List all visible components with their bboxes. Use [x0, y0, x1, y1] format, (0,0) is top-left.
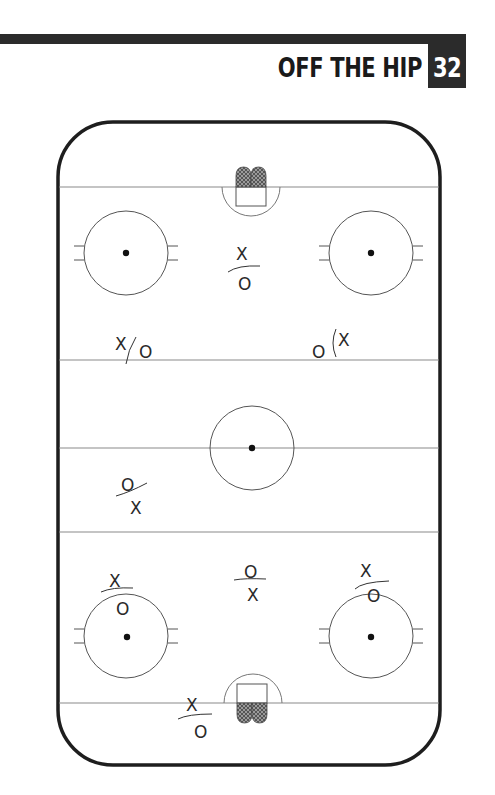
player-o: O: [238, 274, 251, 294]
faceoff-dot: [368, 250, 374, 256]
player-x: X: [247, 585, 259, 605]
faceoff-dot: [124, 634, 130, 640]
top-net-icon: [236, 167, 251, 187]
hockey-rink-diagram: X O X O O X O X X O O X X O X O: [0, 0, 495, 795]
player-x: X: [338, 330, 350, 350]
player-o: O: [116, 599, 129, 619]
player-x: X: [360, 561, 372, 581]
rink-boards: [58, 122, 440, 765]
faceoff-dot: [123, 250, 129, 256]
player-x: X: [109, 571, 121, 591]
bottom-net-icon: [237, 703, 252, 723]
player-x: X: [130, 498, 142, 518]
player-o: O: [367, 586, 380, 606]
player-x: X: [115, 334, 127, 354]
player-o: O: [312, 342, 325, 362]
faceoff-dot: [368, 634, 374, 640]
player-o: O: [244, 562, 257, 582]
player-o: O: [194, 722, 207, 742]
player-x: X: [186, 695, 198, 715]
player-o: O: [121, 475, 134, 495]
player-o: O: [139, 342, 152, 362]
center-faceoff-dot: [249, 445, 255, 451]
player-x: X: [236, 244, 248, 264]
